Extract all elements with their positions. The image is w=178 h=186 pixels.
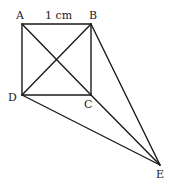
segment-be — [91, 24, 160, 165]
label-c: C — [84, 98, 92, 111]
side-length-label: 1 cm — [45, 9, 73, 22]
label-e: E — [156, 168, 164, 181]
geometry-diagram: A B D C E 1 cm — [0, 0, 178, 186]
label-b: B — [89, 9, 97, 22]
segment-ce — [91, 95, 160, 165]
label-d: D — [8, 91, 17, 104]
label-a: A — [15, 9, 25, 22]
